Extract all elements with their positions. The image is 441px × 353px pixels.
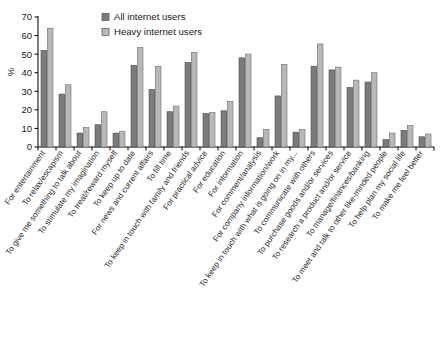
chart-legend: All internet usersHeavy internet users (102, 11, 202, 37)
bar-heavy-internet-users: To research a product and/or service: 36… (353, 80, 359, 147)
bar-all-internet-users: To communicate with others: 43.5% (311, 66, 317, 147)
bar-heavy-internet-users: For comment/analysis: 9.5% (263, 129, 269, 147)
bar-heavy-internet-users: For practical advice: 18.5% (209, 113, 215, 147)
chart-canvas: All internet usersHeavy internet users 0… (0, 0, 441, 353)
chart-category-labels: For entertainmentTo relax/escapismTo giv… (3, 148, 425, 288)
bar-all-internet-users: To make me feel better: 5.5% (419, 137, 425, 147)
bar-heavy-internet-users: For company information/work: 44.5% (281, 64, 287, 147)
bar-heavy-internet-users: To stimulate my imagination: 19% (101, 112, 107, 147)
bar-heavy-internet-users: To relax/escapism: 33.5% (65, 85, 71, 147)
bar-all-internet-users: To manage/finances/banking: 35% (365, 82, 371, 147)
bar-all-internet-users: For news and current affairs: 31% (149, 89, 155, 147)
bar-all-internet-users: For comment/analysis: 5% (257, 138, 263, 147)
y-axis-title: % (5, 67, 16, 76)
y-tick-label: 30 (21, 86, 32, 97)
bar-all-internet-users: For practical advice: 18% (203, 114, 209, 147)
bar-heavy-internet-users: For information: 50% (245, 54, 251, 147)
bar-heavy-internet-users: To keep in touch with family and friends… (191, 52, 197, 147)
bar-all-internet-users: For entertainment: 52% (41, 50, 47, 147)
bar-heavy-internet-users: To communicate with others: 55.5% (317, 44, 323, 147)
bar-all-internet-users: To keep in touch with family and friends… (185, 63, 191, 148)
legend-label-heavy-internet-users: Heavy internet users (114, 26, 202, 37)
bar-heavy-internet-users: To purchase goods and/or services: 43% (335, 67, 341, 147)
bar-heavy-internet-users: To keep up to date: 53.5% (137, 48, 143, 147)
bar-all-internet-users: To help plan my social life: 9% (401, 130, 407, 147)
bar-heavy-internet-users: To meet and talk to other like-minded pe… (389, 133, 395, 147)
bar-heavy-internet-users: To give me something to talk about: 10.5… (83, 128, 89, 148)
bar-all-internet-users: To meet and talk to other like-minded pe… (383, 140, 389, 147)
bar-all-internet-users: To give me something to talk about: 7.5% (77, 133, 83, 147)
bar-all-internet-users: To keep up to date: 44% (131, 65, 137, 147)
bar-all-internet-users: For company information/work: 27.5% (275, 96, 281, 147)
y-tick-label: 50 (21, 49, 32, 60)
bar-heavy-internet-users: To fill time: 22% (173, 106, 179, 147)
y-tick-label: 0 (27, 141, 32, 152)
legend-swatch-all-internet-users (102, 14, 109, 21)
bar-heavy-internet-users: To treat/reward myself: 8.5% (119, 131, 125, 147)
chart-bars: For entertainment: 52%For entertainment:… (41, 28, 431, 147)
bar-heavy-internet-users: For news and current affairs: 43.5% (155, 66, 161, 147)
bar-heavy-internet-users: For education: 24.5% (227, 102, 233, 148)
y-tick-label: 60 (21, 30, 32, 41)
bar-all-internet-users: To fill time: 19% (167, 112, 173, 147)
bar-all-internet-users: To relax/escapism: 28.5% (59, 94, 65, 147)
bar-heavy-internet-users: To make me feel better: 7% (425, 134, 431, 147)
bar-heavy-internet-users: For entertainment: 64% (47, 28, 53, 147)
y-tick-label: 70 (21, 11, 32, 22)
bar-all-internet-users: To research a product and/or service: 32… (347, 88, 353, 147)
bar-all-internet-users: To keep in touch with what is going on i… (293, 132, 299, 147)
x-category-label: To give me something to talk about (4, 148, 84, 256)
legend-label-all-internet-users: All internet users (114, 11, 186, 22)
bar-all-internet-users: For education: 19.5% (221, 111, 227, 147)
y-tick-label: 10 (21, 123, 32, 134)
bar-all-internet-users: To purchase goods and/or services: 41.5% (329, 70, 335, 147)
bar-all-internet-users: To stimulate my imagination: 12% (95, 125, 101, 147)
bar-all-internet-users: To treat/reward myself: 7.5% (113, 133, 119, 147)
y-tick-label: 40 (21, 67, 32, 78)
bar-all-internet-users: For information: 48% (239, 58, 245, 147)
bar-chart: All internet usersHeavy internet users 0… (0, 0, 441, 353)
y-tick-label: 20 (21, 104, 32, 115)
bar-heavy-internet-users: To keep in touch with what is going on i… (299, 129, 305, 147)
legend-swatch-heavy-internet-users (102, 29, 109, 36)
bar-heavy-internet-users: To manage/finances/banking: 40% (371, 73, 377, 147)
bar-heavy-internet-users: To help plan my social life: 11.5% (407, 126, 413, 147)
